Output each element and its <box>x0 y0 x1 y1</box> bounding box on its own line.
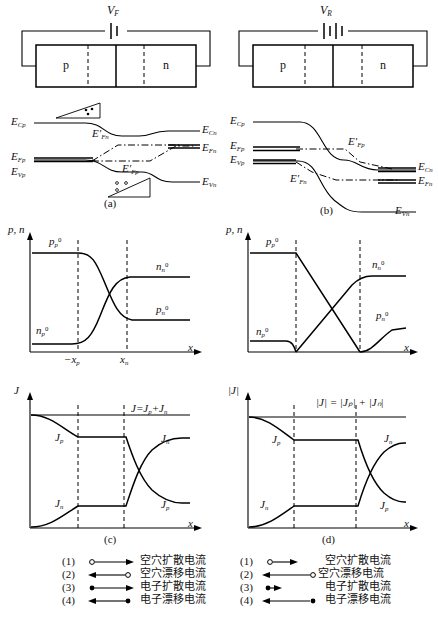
xtick-xn: xn <box>120 354 128 366</box>
caption-a: (a) <box>104 198 116 209</box>
band-diagram-reverse <box>253 122 416 212</box>
current-plot-reverse <box>245 392 418 531</box>
band-label-efp-prime-right: E′Fp <box>348 136 365 148</box>
axis-label-x-carrier-right: x <box>404 342 409 353</box>
band-label-evp-right: EVp <box>230 154 244 166</box>
legend-left-text-4: 电子漂移电流 <box>140 594 206 605</box>
axis-label-x-current-right: x <box>404 518 409 529</box>
curve-label-pn0-right: pn0 <box>376 310 388 322</box>
legend-right-num-1: (1) <box>240 556 253 567</box>
curve-label-jp-right-c: Jp <box>161 499 169 511</box>
legend-left-text-3: 电子扩散电流 <box>140 581 206 592</box>
curve-label-np0-left: np0 <box>36 325 48 337</box>
axis-label-x-carrier-left: x <box>188 342 193 353</box>
caption-c: (c) <box>104 534 116 545</box>
circuit-right <box>239 23 427 87</box>
legend-right-num-4: (4) <box>240 595 253 606</box>
curve-label-nn0-left: nn0 <box>156 261 168 273</box>
legend-right-num-3: (3) <box>240 582 253 593</box>
band-label-efp-left: EFp <box>11 151 25 163</box>
annotation-total-current-left: J=Jp+Jn <box>131 403 167 415</box>
curve-label-pp0-right: pp0 <box>266 236 278 248</box>
band-label-ecn-right: ECn <box>418 161 433 173</box>
axis-label-pn-right: p, n <box>226 224 243 235</box>
legend-left-text-2: 空穴漂移电流 <box>140 568 206 579</box>
band-label-evn-left: EVn <box>202 176 216 188</box>
curve-label-pn0-left: pn0 <box>156 304 168 316</box>
band-label-efn-prime-right: E′Fn <box>290 173 307 185</box>
curve-label-np0-right: np0 <box>256 326 268 338</box>
legend-left-num-1: (1) <box>62 556 75 567</box>
legend-left-num-2: (2) <box>62 569 75 580</box>
figure-root: VF p n VR p n ECp EFp EVp ECn EFn EVn E′… <box>0 0 438 618</box>
current-plot-forward <box>27 392 202 531</box>
axis-label-j-left: J <box>14 385 19 396</box>
caption-d: (d) <box>322 534 335 545</box>
annotation-total-current-right: |J| = |Jₚ| + |Jₙ| <box>316 397 384 408</box>
curve-label-pp0-left: pp0 <box>49 236 61 248</box>
band-label-efn-right: EFn <box>418 175 432 187</box>
band-label-efn-prime-left: E′Fn <box>92 128 109 140</box>
xtick-minus-xp: −xp <box>64 354 80 366</box>
curve-label-jn-left-d: Jn <box>260 499 268 511</box>
legend-right-glyphs <box>262 559 315 604</box>
axis-label-x-current-left: x <box>188 518 193 529</box>
legend-right-text-1: 空穴扩散电流 <box>325 555 391 566</box>
curve-label-jn-left: Jn <box>55 498 63 510</box>
carrier-plot-forward <box>27 232 202 355</box>
band-label-efn-left: EFn <box>202 142 216 154</box>
band-label-ecp-left: ECp <box>11 116 26 128</box>
voltage-label-reverse: VR <box>320 4 332 17</box>
band-label-evp-left: EVp <box>11 166 25 178</box>
figure-vector-layer <box>0 0 438 618</box>
curve-label-jp-left-d: Jp <box>272 434 280 446</box>
axis-label-pn-left: p, n <box>8 224 25 235</box>
circuit-left <box>22 23 210 87</box>
band-label-ecn-left: ECn <box>202 124 217 136</box>
legend-left-glyphs <box>88 559 134 604</box>
curve-label-nn0-right: nn0 <box>372 259 384 271</box>
band-diagram-forward <box>34 103 200 197</box>
band-label-efp-prime-left: E′Fp <box>122 163 139 175</box>
caption-b: (b) <box>320 205 333 216</box>
legend-left-num-3: (3) <box>62 582 75 593</box>
legend-right-text-4: 电子漂移电流 <box>325 594 391 605</box>
legend-right-text-2: 空穴漂移电流 <box>318 568 384 579</box>
region-label-p-left: p <box>63 59 69 71</box>
curve-label-jn-right-c: Jn <box>161 433 169 445</box>
band-label-evn-right: EVn <box>395 205 409 217</box>
curve-label-jp-left: Jp <box>55 432 63 444</box>
band-label-efp-right: EFp <box>230 140 244 152</box>
region-label-n-left: n <box>163 59 169 71</box>
axis-label-absj-right: |J| <box>228 385 239 396</box>
region-label-p-right: p <box>280 59 286 71</box>
legend-right-num-2: (2) <box>240 569 253 580</box>
carrier-plot-reverse <box>245 232 418 355</box>
band-label-ecp-right: ECp <box>230 115 245 127</box>
legend-right-text-3: 电子扩散电流 <box>325 581 391 592</box>
region-label-n-right: n <box>380 59 386 71</box>
curve-label-jn-right-d: Jn <box>384 433 392 445</box>
legend-left-num-4: (4) <box>62 595 75 606</box>
curve-label-jp-right-d: Jp <box>380 500 388 512</box>
legend-left-text-1: 空穴扩散电流 <box>140 555 206 566</box>
voltage-label-forward: VF <box>107 4 119 17</box>
